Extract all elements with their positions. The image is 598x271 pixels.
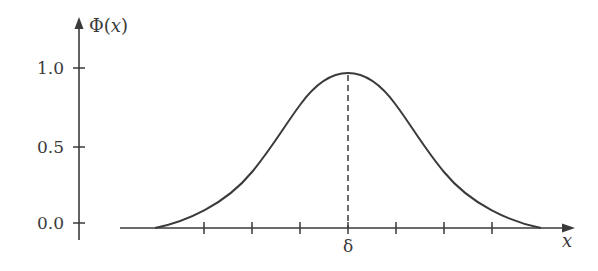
y-axis-label: Φ(x)	[89, 15, 128, 36]
y-axis: 1.0 0.5 0.0 Φ(x)	[37, 15, 128, 240]
x-axis-label: x	[562, 230, 572, 251]
y-tick-label-1: 1.0	[37, 58, 64, 78]
y-axis-arrow-icon	[75, 17, 84, 29]
chart: 1.0 0.5 0.0 Φ(x) δ x	[0, 0, 598, 271]
x-tick-label-delta: δ	[343, 236, 353, 256]
y-tick-label-0: 0.0	[37, 213, 64, 233]
y-tick-label-05: 0.5	[37, 137, 64, 157]
